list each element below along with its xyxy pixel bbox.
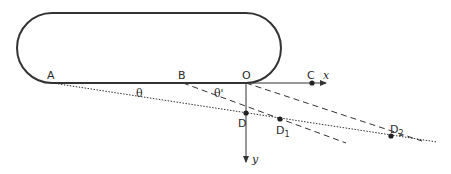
label-theta: θ bbox=[136, 87, 143, 100]
label-o: O bbox=[242, 69, 251, 82]
label-d2: D2 bbox=[390, 123, 404, 138]
label-c: C bbox=[307, 69, 315, 82]
sight-line-b bbox=[183, 83, 346, 143]
geometry-diagram: A B O C x y D D1 D2 θ θ' bbox=[0, 0, 451, 174]
label-y-axis: y bbox=[251, 153, 259, 166]
label-d1: D1 bbox=[276, 124, 290, 139]
point-d bbox=[243, 110, 248, 115]
label-b: B bbox=[178, 69, 186, 82]
label-theta-prime: θ' bbox=[214, 87, 224, 100]
label-a: A bbox=[47, 69, 55, 82]
point-d1 bbox=[277, 116, 282, 121]
label-x-axis: x bbox=[323, 69, 330, 82]
label-d: D bbox=[238, 117, 246, 130]
